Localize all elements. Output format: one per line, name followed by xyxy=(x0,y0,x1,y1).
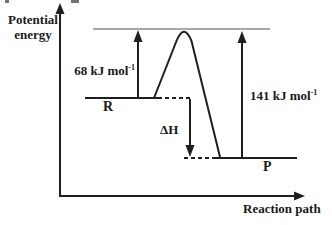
reactant-label: R xyxy=(103,99,113,114)
x-axis-label: Reaction path xyxy=(243,201,321,216)
y-axis-label: Potential energy xyxy=(4,12,62,42)
scan-artifact xyxy=(5,0,9,3)
x-axis-arrowhead-icon xyxy=(294,192,305,201)
scan-artifact xyxy=(71,0,79,3)
y-axis-label-line2: energy xyxy=(4,27,62,42)
forward-activation-energy-label: 68 kJ mol-1 xyxy=(68,63,135,78)
delta-h-arrowhead-icon xyxy=(186,145,195,157)
reverse-activation-arrowhead-icon xyxy=(238,31,247,43)
forward-activation-energy-exponent: -1 xyxy=(128,63,135,72)
reverse-activation-energy-exponent: -1 xyxy=(311,88,318,97)
product-label: P xyxy=(263,159,272,174)
delta-h-label: ΔH xyxy=(160,122,178,137)
forward-activation-arrowhead-icon xyxy=(134,30,143,42)
energy-barrier-curve xyxy=(154,32,220,157)
energy-profile-figure: Potential energy Reaction path 68 kJ mol… xyxy=(0,0,332,225)
reverse-activation-energy-label: 141 kJ mol-1 xyxy=(250,88,317,103)
forward-activation-energy-value: 68 kJ mol xyxy=(74,63,128,78)
reverse-activation-energy-value: 141 kJ mol xyxy=(250,88,311,103)
y-axis-label-line1: Potential xyxy=(4,12,62,27)
